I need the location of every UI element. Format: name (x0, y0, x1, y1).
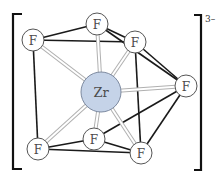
fluorine-atom-top-left: F (22, 29, 44, 51)
fluorine-label: F (90, 133, 98, 147)
fluorine-label: F (137, 147, 145, 161)
ion-charge: 3– (205, 14, 216, 24)
zrf7-structure-diagram: 3– Zr FFFFFFF (0, 0, 222, 176)
edge-F4-F5 (141, 86, 186, 153)
edge-F3-F5 (135, 42, 141, 153)
fluorine-label: F (131, 36, 139, 50)
fluorine-label: F (34, 143, 42, 157)
fluorine-atom-top-right: F (124, 31, 146, 53)
zr-label: Zr (93, 85, 109, 100)
fluorine-label: F (29, 34, 37, 48)
central-atom-zr: Zr (81, 72, 121, 112)
left-bracket (13, 14, 22, 169)
edge-F1-F7 (33, 40, 38, 149)
edge-F7-F5 (38, 149, 141, 153)
fluorine-atom-right: F (175, 75, 197, 97)
fluorine-atom-bottom-right: F (130, 142, 152, 164)
fluorine-atom-top: F (86, 13, 108, 35)
fluorine-label: F (93, 18, 101, 32)
fluorine-atom-bottom-left: F (27, 138, 49, 160)
fluorine-label: F (182, 80, 190, 94)
fluorine-atom-bottom-center: F (83, 128, 105, 150)
